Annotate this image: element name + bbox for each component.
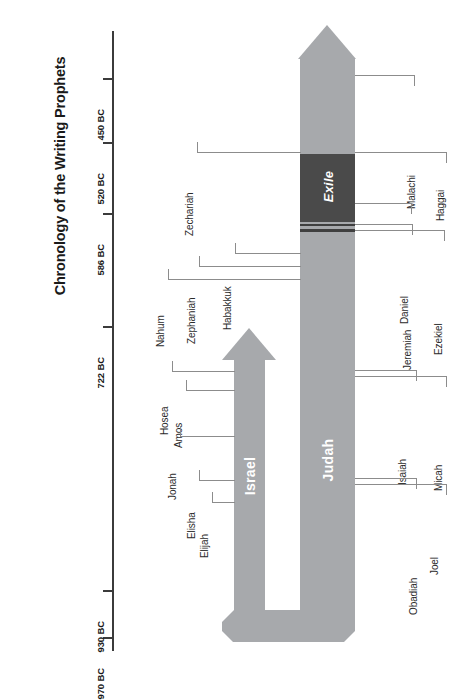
prophet-label-obadiah: Obadiah <box>408 551 419 615</box>
exile-label: Exile <box>321 157 336 217</box>
connector-malachi <box>355 75 415 76</box>
connector-jonah <box>180 436 235 437</box>
stub-nahum <box>168 269 169 280</box>
exile-stripe-upper <box>300 224 355 226</box>
stub-zephaniah <box>199 256 200 267</box>
connector-isaiah <box>355 370 417 371</box>
axis-label-450bc: 450 BC <box>95 83 106 141</box>
connector-joel <box>355 484 447 485</box>
prophet-label-joel: Joel <box>429 535 440 575</box>
connector-haggai <box>355 152 447 153</box>
prophet-label-elisha: Elisha <box>186 489 197 539</box>
connector-hosea <box>172 371 235 372</box>
stub-habakkuk <box>235 243 236 254</box>
prophet-label-jonah: Jonah <box>167 445 178 500</box>
axis-label-970bc: 970 BC <box>95 642 106 700</box>
stub-ezekiel <box>444 230 445 241</box>
bevel-bottom-right <box>344 631 355 642</box>
stub-elijah <box>212 492 213 503</box>
page-title: Chronology of the Writing Prophets <box>52 46 68 306</box>
stub-joel <box>446 484 447 495</box>
prophet-label-amos: Amos <box>173 399 184 448</box>
axis-label-586bc: 586 BC <box>95 218 106 276</box>
axis-tick-586bc <box>103 213 113 215</box>
connector-amos <box>186 390 235 391</box>
prophet-label-habakkuk: Habakkuk <box>222 262 233 330</box>
prophet-label-zechariah: Zechariah <box>184 161 195 236</box>
prophet-label-elijah: Elijah <box>199 511 210 558</box>
axis-tick-520bc <box>103 142 113 144</box>
connector-habakkuk <box>235 253 301 254</box>
stub-amos <box>186 380 187 391</box>
axis-label-722bc: 722 BC <box>95 331 106 389</box>
connector-zephaniah <box>199 266 301 267</box>
prophet-label-malachi: Malachi <box>406 147 417 209</box>
stub-hosea <box>172 361 173 372</box>
stub-malachi <box>414 75 415 86</box>
kingdom-join-bottom <box>222 610 355 642</box>
connector-nahum <box>168 279 301 280</box>
israel-arrowhead <box>222 328 276 360</box>
judah-label: Judah <box>320 420 336 500</box>
prophet-label-hosea: Hosea <box>159 380 170 435</box>
prophet-label-zephaniah: Zephaniah <box>186 275 197 344</box>
prophet-label-ezekiel: Ezekiel <box>433 299 444 355</box>
stub-jonah <box>180 426 181 437</box>
connector-ezekiel <box>355 230 445 231</box>
axis-tick-722bc <box>103 326 113 328</box>
judah-arrowhead <box>298 25 356 59</box>
connector-obadiah <box>355 478 417 479</box>
connector-daniel <box>355 203 412 204</box>
stub-zechariah <box>197 142 198 153</box>
axis-tick-450bc <box>103 78 113 80</box>
prophet-label-nahum: Nahum <box>155 288 166 347</box>
connector-elijah <box>212 502 235 503</box>
prophet-label-jeremiah: Jeremiah <box>402 304 413 370</box>
stub-micah <box>446 376 447 387</box>
stub-daniel <box>411 203 412 214</box>
connector-elisha <box>199 480 235 481</box>
timeline-axis <box>112 31 114 651</box>
bevel-bottom-left <box>222 631 233 642</box>
judah-shaft <box>300 58 355 610</box>
prophet-label-haggai: Haggai <box>435 163 446 221</box>
stub-haggai <box>446 152 447 163</box>
connector-jeremiah <box>355 224 413 225</box>
bottom-left-bevel <box>222 610 234 622</box>
stub-elisha <box>199 470 200 481</box>
israel-label: Israel <box>242 436 258 516</box>
connector-micah <box>355 376 447 377</box>
axis-label-520bc: 520 BC <box>95 147 106 205</box>
exile-stripe-lower <box>300 229 355 232</box>
axis-tick-930bc <box>103 590 113 592</box>
connector-zechariah <box>197 152 301 153</box>
